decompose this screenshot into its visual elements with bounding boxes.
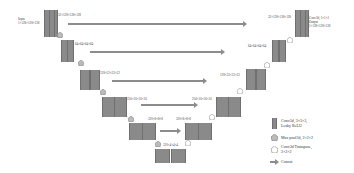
encoder-block-2b — [90, 70, 100, 90]
encoder-label-4: 320×8×8×8 — [148, 117, 163, 121]
decoder-block-4b — [198, 123, 212, 140]
max-pool-icon — [100, 89, 106, 95]
decoder-label-2: 128×32×32×32 — [220, 73, 240, 77]
decoder-block-1a — [272, 40, 279, 62]
legend-conv-line2: Leaky ReLU — [281, 123, 307, 128]
legend-pool: Max pool3d, 2×2×2 — [281, 135, 313, 140]
max-pool-icon — [128, 116, 134, 122]
skip-arrow-3 — [141, 104, 195, 106]
decoder-label-1: 64×64×64×64 — [248, 44, 266, 48]
skip-arrow-4 — [160, 130, 178, 132]
output-shape: 1×128×128×128 — [309, 24, 330, 28]
conv-transpose-icon — [185, 140, 191, 146]
decoder-label-3: 256×16×16×16 — [192, 97, 212, 101]
max-pool-icon — [78, 60, 84, 66]
conv-transpose-icon — [237, 88, 243, 94]
max-pool-icon — [57, 32, 63, 38]
encoder-block-1b — [67, 40, 74, 62]
decoder-label-0: 32×128×128×128 — [268, 15, 291, 19]
encoder-label-1: 64×64×64×64 — [75, 42, 93, 46]
encoder-block-4a — [129, 123, 143, 140]
encoder-block-2a — [80, 70, 90, 90]
input-label: Input 1×128×128×128 — [18, 17, 39, 25]
encoder-label-2: 128×32×32×32 — [100, 71, 120, 75]
max-pool-icon — [271, 134, 278, 141]
bottleneck-block-a — [155, 149, 170, 163]
concat-arrow-icon — [270, 161, 276, 163]
encoder-label-3: 256×16×16×16 — [127, 97, 147, 101]
encoder-label-5: 320×4×4×4 — [163, 143, 178, 147]
decoder-block-4a — [185, 123, 199, 140]
decoder-block-2b — [256, 69, 266, 90]
decoder-label-4: 320×8×8×8 — [176, 117, 191, 121]
max-pool-icon — [155, 141, 161, 147]
conv-transpose-icon — [264, 62, 270, 68]
legend-transpose-line2: 2×2×2 — [281, 149, 312, 154]
decoder-block-2a — [246, 69, 256, 90]
legend-transpose: Conv3d Transpose, 2×2×2 — [281, 144, 312, 154]
encoder-block-4b — [142, 123, 156, 140]
input-shape: 1×128×128×128 — [18, 21, 39, 25]
skip-arrow-1 — [90, 51, 222, 53]
encoder-label-0: 32×128×128×128 — [58, 13, 81, 17]
encoder-block-3b — [114, 97, 127, 117]
decoder-block-1b — [279, 40, 286, 62]
conv-transpose-icon — [271, 146, 278, 153]
legend-conv: Conv3d, 3×3×3, Leaky ReLU — [281, 118, 307, 128]
conv-block-icon — [272, 118, 277, 129]
decoder-block-3b — [228, 97, 241, 117]
legend-concat: Concat — [281, 159, 292, 164]
output-label: Conv3d, 1×1×1 Output 1×128×128×128 — [309, 16, 330, 28]
skip-arrow-2 — [112, 80, 204, 82]
bottleneck-block-b — [171, 149, 186, 163]
skip-arrow-0 — [68, 23, 244, 25]
conv-transpose-icon — [209, 114, 215, 120]
conv-transpose-icon — [287, 37, 293, 43]
